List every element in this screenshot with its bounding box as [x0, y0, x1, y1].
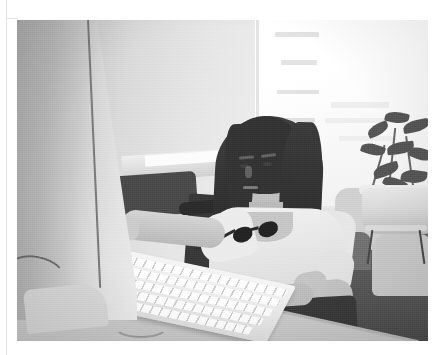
mouth	[243, 186, 258, 189]
page-rule-top	[6, 18, 18, 19]
eye-right	[263, 162, 272, 166]
page-rule-vertical	[6, 0, 7, 355]
nose	[245, 166, 252, 178]
cable-loop-secondary	[113, 314, 169, 338]
page-canvas: A young woman with long dark hair sits a…	[0, 0, 445, 355]
photograph	[17, 20, 428, 341]
